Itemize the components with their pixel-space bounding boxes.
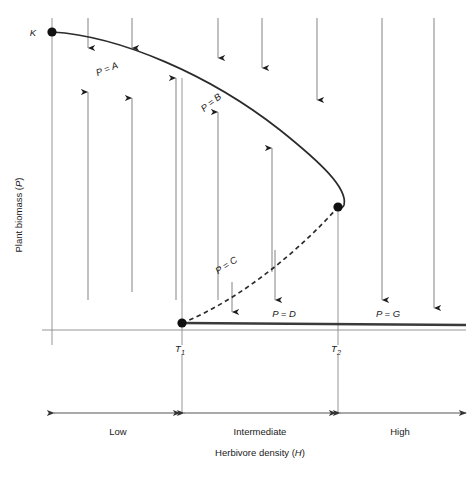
threshold-labels: T1 T2 [175, 343, 341, 357]
state-label-c: P = C [213, 254, 239, 276]
figure-canvas: K P = A P = B P = C P = D P = G T1 T2 Lo [0, 0, 474, 477]
bifurcation-figure: K P = A P = B P = C P = D P = G T1 T2 Lo [0, 0, 474, 477]
region-label-low: Low [109, 426, 127, 437]
fold-point-dot [333, 202, 342, 211]
state-labels: P = A P = B P = C P = D P = G [94, 59, 400, 319]
y-axis-label: Plant biomass (P) [13, 178, 24, 253]
threshold-guides [182, 78, 338, 412]
zero-stable-branch [182, 323, 466, 325]
t2-label: T2 [331, 343, 341, 357]
equilibrium-points [47, 27, 342, 327]
upward-flow-arrows [88, 78, 272, 300]
upper-stable-branch [52, 32, 344, 208]
state-label-b: P = B [198, 90, 224, 113]
state-label-a: P = A [94, 59, 119, 78]
state-label-g: P = G [376, 308, 400, 319]
k-label: K [30, 27, 37, 38]
state-label-d: P = D [272, 308, 296, 319]
x-axis-label: Herbivore density (H) [215, 447, 305, 458]
region-label-high: High [390, 426, 410, 437]
t1-label: T1 [175, 343, 185, 357]
unstable-branch [182, 207, 338, 323]
t1-point-dot [177, 318, 186, 327]
region-label-intermediate: Intermediate [234, 426, 287, 437]
region-labels: Low Intermediate High [109, 426, 409, 437]
k-point-dot [47, 27, 56, 36]
downward-flow-arrows [88, 18, 434, 312]
